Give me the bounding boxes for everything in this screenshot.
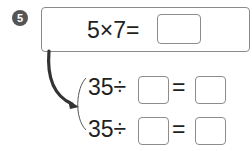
dividend-2: 35 [88,116,114,142]
equals-sign-1: = [172,73,185,101]
division-row-1-left: 35÷ [88,73,126,101]
curved-arrow-icon [49,51,72,104]
divide-sign-2: ÷ [114,116,127,142]
division-row-2-left: 35÷ [88,115,126,143]
quotient-box-1[interactable] [195,76,226,104]
divisor-box-1[interactable] [138,76,169,104]
equals-sign-2: = [172,115,185,143]
divide-sign-1: ÷ [114,74,127,100]
quotient-box-2[interactable] [195,117,226,145]
divisor-box-2[interactable] [138,117,169,145]
dividend-1: 35 [88,74,114,100]
bracket-curve [78,78,86,130]
